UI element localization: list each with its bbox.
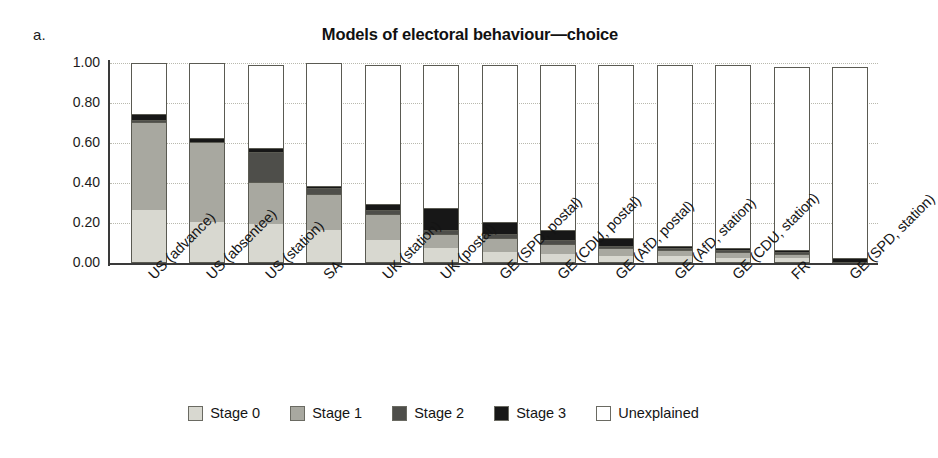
bar-segment bbox=[541, 244, 575, 254]
bar-segment bbox=[307, 63, 341, 186]
legend-label: Unexplained bbox=[618, 405, 699, 421]
bar-segment bbox=[716, 250, 750, 252]
bar-segment bbox=[132, 114, 166, 120]
bar-segment bbox=[775, 250, 809, 252]
bar-segment bbox=[833, 67, 867, 258]
bar-segment bbox=[249, 65, 283, 148]
y-axis-tick-label: 0.60 bbox=[46, 134, 100, 150]
bar-segment bbox=[366, 214, 400, 240]
legend-label: Stage 3 bbox=[516, 405, 566, 421]
y-axis-tick-label: 0.00 bbox=[46, 254, 100, 270]
legend-item[interactable]: Unexplained bbox=[596, 405, 699, 421]
legend-item[interactable]: Stage 0 bbox=[188, 405, 260, 421]
legend-item[interactable]: Stage 2 bbox=[392, 405, 464, 421]
bar-segment bbox=[132, 63, 166, 114]
bar-segment bbox=[424, 65, 458, 208]
bar-segment bbox=[716, 248, 750, 250]
bar-segment bbox=[190, 138, 224, 142]
bar-segment bbox=[249, 148, 283, 152]
bar-stack[interactable] bbox=[131, 63, 167, 263]
bar-segment bbox=[483, 65, 517, 222]
legend-swatch-icon bbox=[188, 406, 203, 421]
legend-swatch-icon bbox=[494, 406, 509, 421]
bar-stack[interactable] bbox=[365, 65, 401, 263]
y-axis-tick-label: 0.40 bbox=[46, 174, 100, 190]
y-axis-line bbox=[108, 60, 110, 266]
legend-swatch-icon bbox=[392, 406, 407, 421]
bar-segment bbox=[132, 120, 166, 122]
bar-segment bbox=[599, 246, 633, 248]
bar-segment bbox=[658, 246, 692, 248]
bar-segment bbox=[775, 252, 809, 254]
legend-label: Stage 2 bbox=[414, 405, 464, 421]
y-axis-tick-label: 1.00 bbox=[46, 54, 100, 70]
y-axis-tick-label: 0.80 bbox=[46, 94, 100, 110]
bar-stack[interactable] bbox=[832, 67, 868, 263]
bar-segment bbox=[190, 63, 224, 138]
bar-segment bbox=[658, 248, 692, 250]
legend-label: Stage 0 bbox=[210, 405, 260, 421]
bar-segment bbox=[366, 210, 400, 214]
legend-swatch-icon bbox=[596, 406, 611, 421]
bar-segment bbox=[366, 204, 400, 210]
bar-segment bbox=[249, 152, 283, 182]
legend-item[interactable]: Stage 1 bbox=[290, 405, 362, 421]
chart-title: Models of electoral behaviour—choice bbox=[230, 25, 710, 44]
bar-segment bbox=[775, 254, 809, 258]
legend-item[interactable]: Stage 3 bbox=[494, 405, 566, 421]
bar-segment bbox=[366, 65, 400, 204]
legend-swatch-icon bbox=[290, 406, 305, 421]
bar-segment bbox=[307, 186, 341, 188]
bar-segment bbox=[307, 188, 341, 194]
y-axis-tick-label: 0.20 bbox=[46, 214, 100, 230]
chart-legend: Stage 0Stage 1Stage 2Stage 3Unexplained bbox=[0, 405, 887, 421]
bar-segment bbox=[132, 122, 166, 210]
panel-letter: a. bbox=[33, 26, 46, 43]
legend-label: Stage 1 bbox=[312, 405, 362, 421]
y-axis-tick-labels: 0.000.200.400.600.801.00 bbox=[40, 63, 100, 263]
